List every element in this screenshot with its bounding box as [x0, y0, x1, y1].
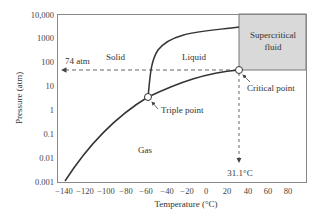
triple-point-label: Triple point: [161, 105, 204, 115]
liquid-label: Liquid: [182, 52, 206, 62]
x-tick-label: 20: [223, 186, 232, 196]
x-tick-label: −20: [180, 186, 193, 196]
phase-diagram-chart: Solid Liquid Gas Supercritical fluid Tri…: [0, 0, 321, 218]
gas-label: Gas: [138, 145, 152, 155]
x-tick-label: −120: [76, 186, 94, 196]
x-tick-label: −40: [160, 186, 173, 196]
pressure-reference-label: 74 atm: [65, 56, 90, 66]
triple-point-arrow: [152, 102, 158, 109]
y-tick-label: 1: [50, 105, 54, 115]
y-axis-title: Pressure (atm): [14, 72, 24, 124]
x-tick-label: −80: [119, 186, 132, 196]
fusion-curve: [148, 27, 239, 97]
x-tick-label: 40: [244, 186, 253, 196]
y-tick-label: 10: [46, 81, 55, 91]
y-tick-label: 10,000: [31, 10, 54, 20]
x-tick-label: 60: [264, 186, 273, 196]
supercritical-label-line1: Supercritical: [250, 30, 296, 40]
y-tick-label: 0.01: [39, 153, 54, 163]
y-axis-ticks: 10,000 1000 100 10 1 0.1 0.01 0.001: [31, 10, 54, 187]
y-tick-label: 1000: [37, 33, 54, 43]
x-tick-label: 80: [284, 186, 293, 196]
critical-point-label: Critical point: [247, 83, 295, 93]
sublimation-curve: [65, 97, 148, 181]
solid-label: Solid: [106, 52, 126, 62]
x-tick-label: −140: [55, 186, 73, 196]
x-tick-label: −60: [139, 186, 152, 196]
x-tick-label: 0: [204, 186, 208, 196]
x-tick-label: −100: [97, 186, 115, 196]
triple-point-marker: [145, 94, 152, 101]
critical-point-arrow: [243, 75, 250, 82]
y-tick-label: 0.1: [43, 129, 54, 139]
y-tick-label: 100: [41, 57, 54, 67]
x-axis-ticks: −140 −120 −100 −80 −60 −40 −20 0 20 40 6…: [55, 186, 292, 196]
x-axis-title: Temperature (°C): [154, 199, 217, 209]
vaporization-curve: [148, 70, 239, 97]
temperature-reference-label: 31.1°C: [227, 168, 252, 178]
critical-point-marker: [236, 67, 243, 74]
supercritical-label-line2: fluid: [265, 42, 282, 52]
y-tick-label: 0.001: [35, 177, 54, 187]
